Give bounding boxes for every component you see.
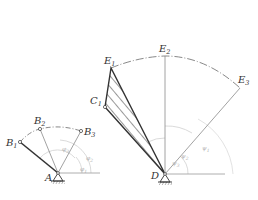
angle-label-psi3: ψ3 xyxy=(172,159,180,168)
link-AB1 xyxy=(20,142,58,173)
label-E1: E1 xyxy=(103,55,115,68)
joint-C1 xyxy=(103,105,106,108)
hatched-link-E1C1D xyxy=(105,68,165,174)
angle-arc-psi2 xyxy=(165,126,192,133)
label-E2: E2 xyxy=(158,43,170,56)
angle-label-psi1: ψ1 xyxy=(202,144,210,153)
linkage-diagram: A B1 B2 B3 φ1 φ2 φ3 D C1 E xyxy=(0,0,258,200)
left-mechanism: A B1 B2 B3 φ1 φ2 φ3 xyxy=(5,115,100,184)
label-E3: E3 xyxy=(237,74,249,87)
label-D: D xyxy=(150,170,159,181)
angle-label-phi3: φ3 xyxy=(62,145,69,154)
ground-support-A xyxy=(51,172,65,184)
label-A: A xyxy=(44,172,52,183)
label-B3: B3 xyxy=(83,126,96,139)
angle-label-phi2: φ2 xyxy=(86,154,93,163)
label-B1: B1 xyxy=(5,137,18,150)
arc-B-positions xyxy=(20,127,81,142)
arc-E-positions xyxy=(111,56,240,88)
label-B2: B2 xyxy=(33,115,46,128)
ground-support-D xyxy=(158,173,172,185)
right-mechanism: D C1 E1 E2 E3 ψ1 ψ2 ψ3 xyxy=(90,43,249,185)
angle-label-psi2: ψ2 xyxy=(181,152,189,161)
link-AB3 xyxy=(58,131,81,173)
joint-B3 xyxy=(79,129,82,132)
joint-B1 xyxy=(18,140,21,143)
label-C1: C1 xyxy=(90,95,102,108)
angle-arc-psi3 xyxy=(148,138,165,142)
angle-label-phi1: φ1 xyxy=(80,165,87,174)
